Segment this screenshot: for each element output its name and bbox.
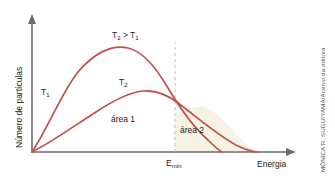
y-axis-arrowhead — [28, 14, 36, 24]
area-1-label: área 1 — [111, 114, 135, 124]
image-credit: MÔNICA R. SUGUIYAMA/Acervo da editora — [319, 47, 326, 172]
x-axis-title: Energia — [257, 159, 287, 169]
y-axis-title: Número de partículas — [14, 67, 24, 148]
e-min-tick-label: Emín — [166, 158, 182, 169]
curve-t2-label: T2 — [119, 77, 128, 88]
temperature-comparison-label: T2 > T1 — [112, 30, 139, 41]
area-2-label: área 2 — [180, 125, 204, 135]
maxwell-boltzmann-distribution-figure: T2 > T1 T1 T2 área 1 área 2 Emín Energia… — [0, 0, 335, 178]
curve-t1-label: T1 — [41, 87, 50, 98]
x-axis-arrowhead — [286, 148, 296, 156]
